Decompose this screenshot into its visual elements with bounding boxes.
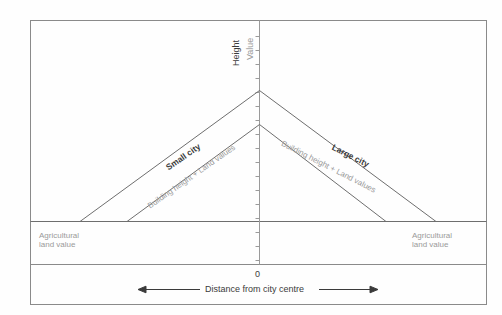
series-large-city-line <box>80 91 436 222</box>
annotation-agricultural-land-value-right: Agriculturalland value <box>412 231 452 250</box>
annotation-agricultural-land-value-left: Agriculturalland value <box>39 231 79 250</box>
arrow-head-left <box>138 286 146 293</box>
agri-left-line1: Agricultural <box>39 231 79 240</box>
figure-container: Height Value Small city Building height … <box>0 0 502 315</box>
y-axis-label-value: Value <box>245 38 256 60</box>
y-axis-label-height: Height <box>231 40 242 66</box>
agri-right-line2: land value <box>412 240 448 249</box>
x-axis-label: Distance from city centre <box>205 284 304 295</box>
agri-right-line1: Agricultural <box>412 231 452 240</box>
arrow-head-right <box>370 286 378 293</box>
x-axis-origin-label: 0 <box>255 269 260 280</box>
agri-left-line2: land value <box>39 240 75 249</box>
y-axis-ticks <box>256 37 260 261</box>
